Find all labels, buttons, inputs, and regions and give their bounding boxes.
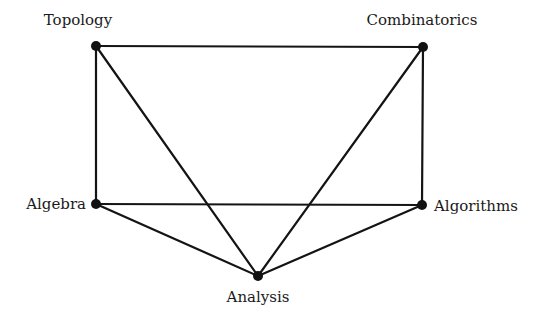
node-algebra [91,199,101,209]
edge-topology-combinatorics [96,46,423,47]
node-algorithms [417,200,427,210]
node-topology [91,41,101,51]
node-label-algebra: Algebra [25,195,86,213]
edge-combinatorics-analysis [258,47,423,276]
node-label-combinatorics: Combinatorics [367,11,478,29]
labels: TopologyCombinatoricsAlgebraAlgorithmsAn… [25,11,518,306]
edge-topology-analysis [96,46,258,276]
edges [96,46,423,276]
node-label-topology: Topology [44,11,113,29]
node-label-algorithms: Algorithms [433,197,518,215]
edge-combinatorics-algorithms [422,47,423,205]
node-combinatorics [418,42,428,52]
edge-algebra-algorithms [96,204,422,205]
node-analysis [253,271,263,281]
nodes [91,41,428,281]
graph-diagram: TopologyCombinatoricsAlgebraAlgorithmsAn… [0,0,538,310]
node-label-analysis: Analysis [226,288,290,306]
